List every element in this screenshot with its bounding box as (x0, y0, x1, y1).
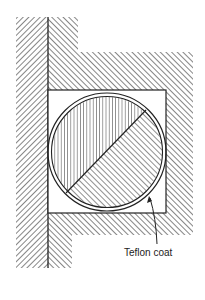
left-housing-block (16, 17, 48, 268)
seal-cross-section-diagram: Teflon coat (0, 0, 205, 300)
teflon-coat-label: Teflon coat (124, 247, 173, 258)
